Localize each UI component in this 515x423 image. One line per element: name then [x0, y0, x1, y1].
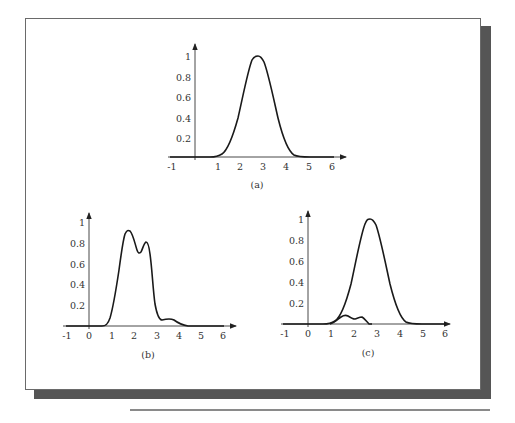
svg-text:2: 2 [351, 328, 357, 339]
svg-text:3: 3 [154, 330, 160, 341]
svg-text:1: 1 [328, 328, 334, 339]
figure-canvas: 0.2 0.4 0.6 0.8 1 -1 1 2 3 4 5 6 (a) 0.2… [0, 0, 515, 423]
svg-text:6: 6 [220, 330, 226, 341]
svg-text:2: 2 [237, 161, 243, 172]
svg-text:3: 3 [260, 161, 266, 172]
svg-text:1: 1 [215, 161, 221, 172]
svg-text:0.4: 0.4 [176, 113, 191, 124]
svg-text:0.6: 0.6 [289, 256, 304, 267]
caption-b: (b) [141, 349, 155, 360]
svg-text:0: 0 [305, 328, 311, 339]
svg-text:-1: -1 [280, 328, 289, 339]
svg-text:4: 4 [176, 330, 182, 341]
multimodal-curve [66, 230, 224, 326]
chart-panel-a: 0.2 0.4 0.6 0.8 1 -1 1 2 3 4 5 6 (a) [167, 44, 346, 190]
svg-text:0.2: 0.2 [176, 133, 191, 144]
svg-text:1: 1 [185, 51, 191, 62]
svg-text:4: 4 [283, 161, 289, 172]
svg-text:1: 1 [109, 330, 115, 341]
x-tick-labels: -1 1 2 3 4 5 6 [167, 161, 335, 172]
x-tick-labels: -1 0 1 2 3 4 5 6 [280, 328, 448, 339]
svg-text:5: 5 [306, 161, 312, 172]
svg-text:-1: -1 [167, 161, 176, 172]
svg-text:1: 1 [79, 217, 85, 228]
chart-panel-b: 0.2 0.4 0.6 0.8 1 -1 0 1 2 3 4 5 6 (b) [62, 213, 236, 360]
svg-text:0.6: 0.6 [176, 92, 191, 103]
svg-text:0.6: 0.6 [70, 259, 85, 270]
y-tick-labels: 0.2 0.4 0.6 0.8 1 [176, 51, 191, 144]
y-tick-labels: 0.2 0.4 0.6 0.8 1 [289, 214, 304, 309]
svg-text:0.8: 0.8 [289, 235, 304, 246]
gaussian-envelope-curve [283, 219, 446, 324]
svg-text:-1: -1 [62, 330, 71, 341]
svg-text:6: 6 [329, 161, 335, 172]
svg-text:0.4: 0.4 [70, 279, 85, 290]
svg-text:5: 5 [198, 330, 204, 341]
chart-panel-c: 0.2 0.4 0.6 0.8 1 -1 0 1 2 3 4 5 6 (c) [280, 211, 450, 358]
svg-text:0.8: 0.8 [70, 238, 85, 249]
svg-text:4: 4 [397, 328, 403, 339]
svg-text:0.4: 0.4 [289, 277, 304, 288]
svg-text:5: 5 [420, 328, 426, 339]
x-tick-labels: -1 0 1 2 3 4 5 6 [62, 330, 226, 341]
svg-text:0.8: 0.8 [176, 72, 191, 83]
svg-text:0: 0 [86, 330, 92, 341]
y-tick-labels: 0.2 0.4 0.6 0.8 1 [70, 217, 85, 311]
svg-text:6: 6 [442, 328, 448, 339]
svg-text:0.2: 0.2 [70, 300, 85, 311]
svg-text:3: 3 [374, 328, 380, 339]
svg-text:0.2: 0.2 [289, 298, 304, 309]
scaled-multimodal-curve [330, 315, 372, 324]
svg-text:2: 2 [131, 330, 137, 341]
caption-c: (c) [362, 347, 375, 358]
svg-text:1: 1 [298, 214, 304, 225]
caption-a: (a) [250, 179, 263, 190]
